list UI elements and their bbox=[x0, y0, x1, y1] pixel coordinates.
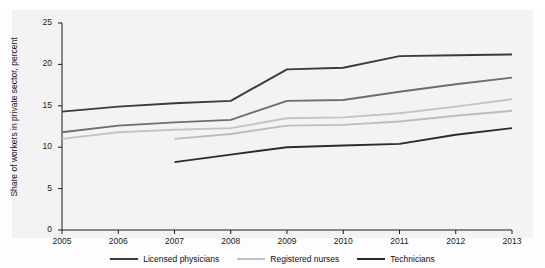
legend-item[interactable]: Licensed physicians bbox=[110, 254, 219, 264]
legend-label: Technicians bbox=[390, 254, 434, 264]
legend-item[interactable]: Technicians bbox=[357, 254, 434, 264]
series-line bbox=[62, 54, 512, 111]
line-chart-plot bbox=[0, 0, 545, 268]
legend-label: Licensed physicians bbox=[143, 254, 219, 264]
legend-swatch bbox=[237, 258, 265, 261]
legend-item[interactable]: Registered nurses bbox=[237, 254, 339, 264]
series-layer bbox=[62, 54, 512, 162]
legend-swatch bbox=[110, 258, 138, 261]
legend-label: Registered nurses bbox=[270, 254, 339, 264]
chart-figure: Share of workers in private sector, perc… bbox=[0, 0, 545, 268]
chart-legend: Licensed physiciansRegistered nursesTech… bbox=[0, 252, 545, 266]
series-line bbox=[175, 128, 513, 162]
legend-swatch bbox=[357, 258, 385, 261]
series-line bbox=[62, 78, 512, 133]
